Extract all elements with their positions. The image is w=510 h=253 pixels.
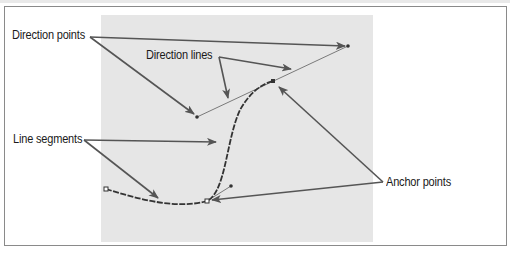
arrow-anchor-points-upper [279,87,383,182]
label-direction-lines: Direction lines [146,48,212,62]
label-line-segments: Line segments [13,132,82,146]
direction-point-upper-right [346,44,350,48]
arrow-anchor-points-lower [212,182,383,200]
label-direction-points: Direction points [12,28,85,42]
direction-point-upper-left [195,115,199,119]
label-anchor-points: Anchor points [386,175,451,189]
leader-arrows [84,37,383,200]
arrow-line-segments-lower [84,140,158,198]
anchor-point-upper [271,79,275,83]
direction-point-lower [229,184,233,188]
path-start-point [104,187,108,191]
arrow-direction-points-right [90,37,345,46]
arrow-direction-lines-right [219,57,291,69]
arrow-direction-lines-left [219,57,228,98]
arrow-line-segments-upper [84,140,216,142]
bezier-curve [106,81,273,204]
anchor-point-lower [205,199,209,203]
